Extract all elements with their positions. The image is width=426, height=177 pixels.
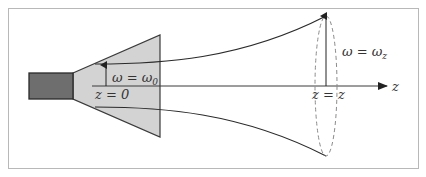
far-omega-label: ω = ωz <box>342 44 387 61</box>
diagram-canvas: ω = ω0 z = 0 ω = ωz z = z z <box>0 0 426 177</box>
far-z-label: z = z <box>311 87 345 102</box>
axis-label: z <box>391 79 399 94</box>
feed-waveguide <box>29 73 73 99</box>
waist-z-label: z = 0 <box>94 87 129 102</box>
waist-omega-label: ω = ω0 <box>112 70 158 87</box>
